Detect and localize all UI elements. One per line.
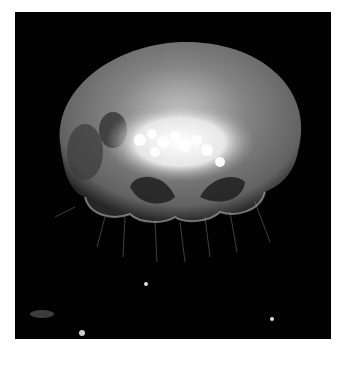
particle	[144, 282, 148, 286]
jellyfish-photo	[15, 12, 331, 339]
jellyfish-illustration	[15, 12, 331, 339]
